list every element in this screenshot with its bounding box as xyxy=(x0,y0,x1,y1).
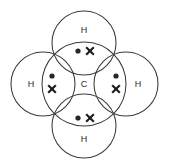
carbon-label-central: C xyxy=(81,79,88,89)
bond-pair-top xyxy=(75,47,93,55)
hydrogen-electron-cross-top xyxy=(86,47,94,55)
hydrogen-label-left: H xyxy=(28,79,35,89)
hydrogen-circle-top xyxy=(52,11,116,75)
carbon-electron-dot-left xyxy=(49,73,54,78)
dot-and-cross-diagram: H H H H C xyxy=(0,0,169,166)
hydrogen-label-right: H xyxy=(135,79,142,89)
methane-molecule-svg: H H H H C xyxy=(0,0,169,166)
bond-pair-bottom xyxy=(75,114,93,122)
carbon-electron-dot-bottom xyxy=(75,115,80,120)
hydrogen-electron-cross-left xyxy=(48,85,56,93)
hydrogen-electron-cross-bottom xyxy=(86,114,94,122)
hydrogen-label-top: H xyxy=(81,25,88,35)
hydrogen-circle-left xyxy=(11,52,75,116)
bond-pair-right xyxy=(112,73,120,92)
hydrogen-label-bottom: H xyxy=(81,134,88,144)
carbon-electron-dot-right xyxy=(113,73,118,78)
carbon-electron-dot-top xyxy=(75,48,80,53)
bond-pair-left xyxy=(48,73,56,92)
hydrogen-electron-cross-right xyxy=(112,85,120,93)
